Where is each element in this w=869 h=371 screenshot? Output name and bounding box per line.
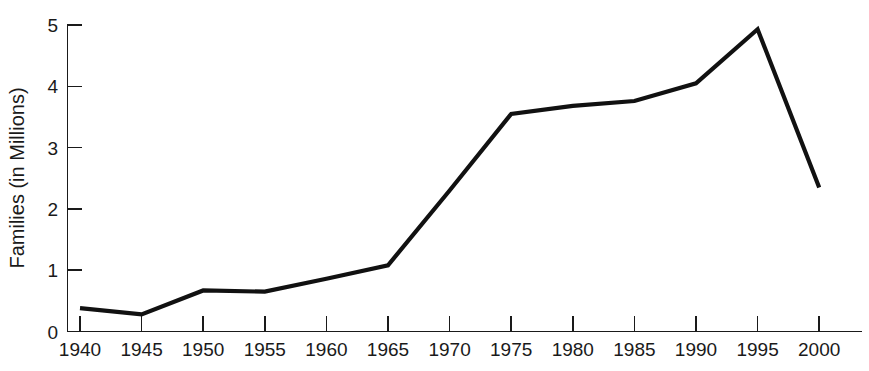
- x-tick-label: 1970: [428, 339, 470, 360]
- x-tick-label: 1945: [120, 339, 162, 360]
- x-tick-label: 1995: [736, 339, 778, 360]
- data-series-line: [80, 29, 819, 314]
- x-tick-label: 1960: [305, 339, 347, 360]
- line-chart: 012345 194019451950195519601965197019751…: [0, 0, 869, 371]
- x-tick-label: 1955: [244, 339, 286, 360]
- x-tick-label: 1980: [552, 339, 594, 360]
- x-tick-label: 1975: [490, 339, 532, 360]
- x-tick-label: 1940: [59, 339, 101, 360]
- x-tick-labels: 1940194519501955196019651970197519801985…: [59, 339, 840, 360]
- x-tick-label: 1985: [613, 339, 655, 360]
- y-tick-label: 1: [47, 260, 58, 281]
- x-axis: 1940194519501955196019651970197519801985…: [59, 316, 862, 360]
- y-tick-label: 3: [47, 138, 58, 159]
- y-axis: 012345: [47, 15, 82, 343]
- y-tick-label: 2: [47, 199, 58, 220]
- y-tick-labels: 012345: [47, 15, 58, 343]
- y-axis-title: Families (in Millions): [6, 87, 28, 268]
- x-tick-label: 1950: [182, 339, 224, 360]
- y-tick-label: 0: [47, 322, 58, 343]
- x-tick-label: 2000: [798, 339, 840, 360]
- y-tick-marks: [68, 25, 83, 332]
- x-tick-label: 1990: [675, 339, 717, 360]
- y-tick-label: 5: [47, 15, 58, 36]
- chart-canvas: 012345 194019451950195519601965197019751…: [0, 0, 869, 371]
- y-tick-label: 4: [47, 76, 58, 97]
- x-tick-label: 1965: [367, 339, 409, 360]
- x-tick-marks: [80, 316, 819, 332]
